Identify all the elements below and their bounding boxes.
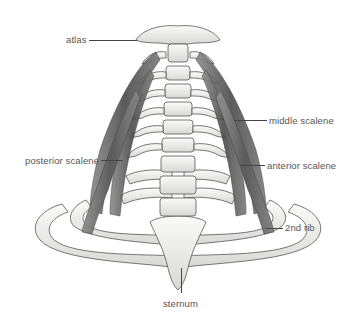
label-posterior-scalene: posterior scalene xyxy=(25,155,99,166)
middle-scalene-leader-line xyxy=(234,120,267,121)
atlas-leader-line xyxy=(89,40,137,41)
second-rib-leader-line xyxy=(266,228,283,229)
label-second-rib: 2nd rib xyxy=(285,222,315,233)
label-sternum: sternum xyxy=(163,298,198,309)
label-middle-scalene: middle scalene xyxy=(269,115,334,126)
posterior-scalene-leader-line xyxy=(101,160,123,161)
anterior-scalene-leader-line xyxy=(240,165,265,166)
cervical-spine xyxy=(126,26,230,216)
sternum-bone xyxy=(150,216,206,290)
label-anterior-scalene: anterior scalene xyxy=(267,160,336,171)
sternum-leader-line xyxy=(181,268,182,293)
label-atlas: atlas xyxy=(66,34,87,45)
